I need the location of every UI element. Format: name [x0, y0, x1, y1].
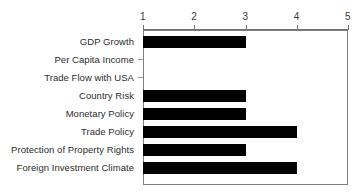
bar-row: GDP Growth [0, 33, 357, 51]
category-label: Per Capita Income [0, 53, 134, 66]
category-label: Monetary Policy [0, 107, 134, 120]
x-axis-tick-label: 2 [184, 11, 204, 22]
x-axis-tick-mark [246, 25, 247, 30]
category-label: Trade Flow with USA [0, 71, 134, 84]
category-label: Country Risk [0, 89, 134, 102]
x-axis-tick-mark [143, 25, 144, 30]
bar-zero-tick [138, 59, 143, 60]
category-label: Foreign Investment Climate [0, 161, 134, 174]
x-axis-tick-label: 3 [236, 11, 256, 22]
category-label: Trade Policy [0, 125, 134, 138]
bar-zero-tick [138, 77, 143, 78]
x-axis-tick-mark [194, 25, 195, 30]
x-axis-tick-label: 4 [287, 11, 307, 22]
x-axis-tick-mark [297, 25, 298, 30]
bar [143, 162, 297, 174]
bar-row: Monetary Policy [0, 105, 357, 123]
bar [143, 36, 246, 48]
x-axis-tick-mark [348, 25, 349, 30]
bar [143, 90, 246, 102]
category-label: GDP Growth [0, 35, 134, 48]
bar [143, 108, 246, 120]
bar [143, 126, 297, 138]
x-axis-tick-label: 5 [338, 11, 357, 22]
bar-row: Trade Flow with USA [0, 69, 357, 87]
bar-row: Per Capita Income [0, 51, 357, 69]
bar [143, 144, 246, 156]
x-axis-tick-label: 1 [133, 11, 153, 22]
bar-row: Protection of Property Rights [0, 141, 357, 159]
bar-chart-screenshot: 12345 GDP GrowthPer Capita IncomeTrade F… [0, 0, 357, 196]
bar-row: Country Risk [0, 87, 357, 105]
bar-row: Foreign Investment Climate [0, 159, 357, 177]
category-label: Protection of Property Rights [0, 143, 134, 156]
bar-row: Trade Policy [0, 123, 357, 141]
